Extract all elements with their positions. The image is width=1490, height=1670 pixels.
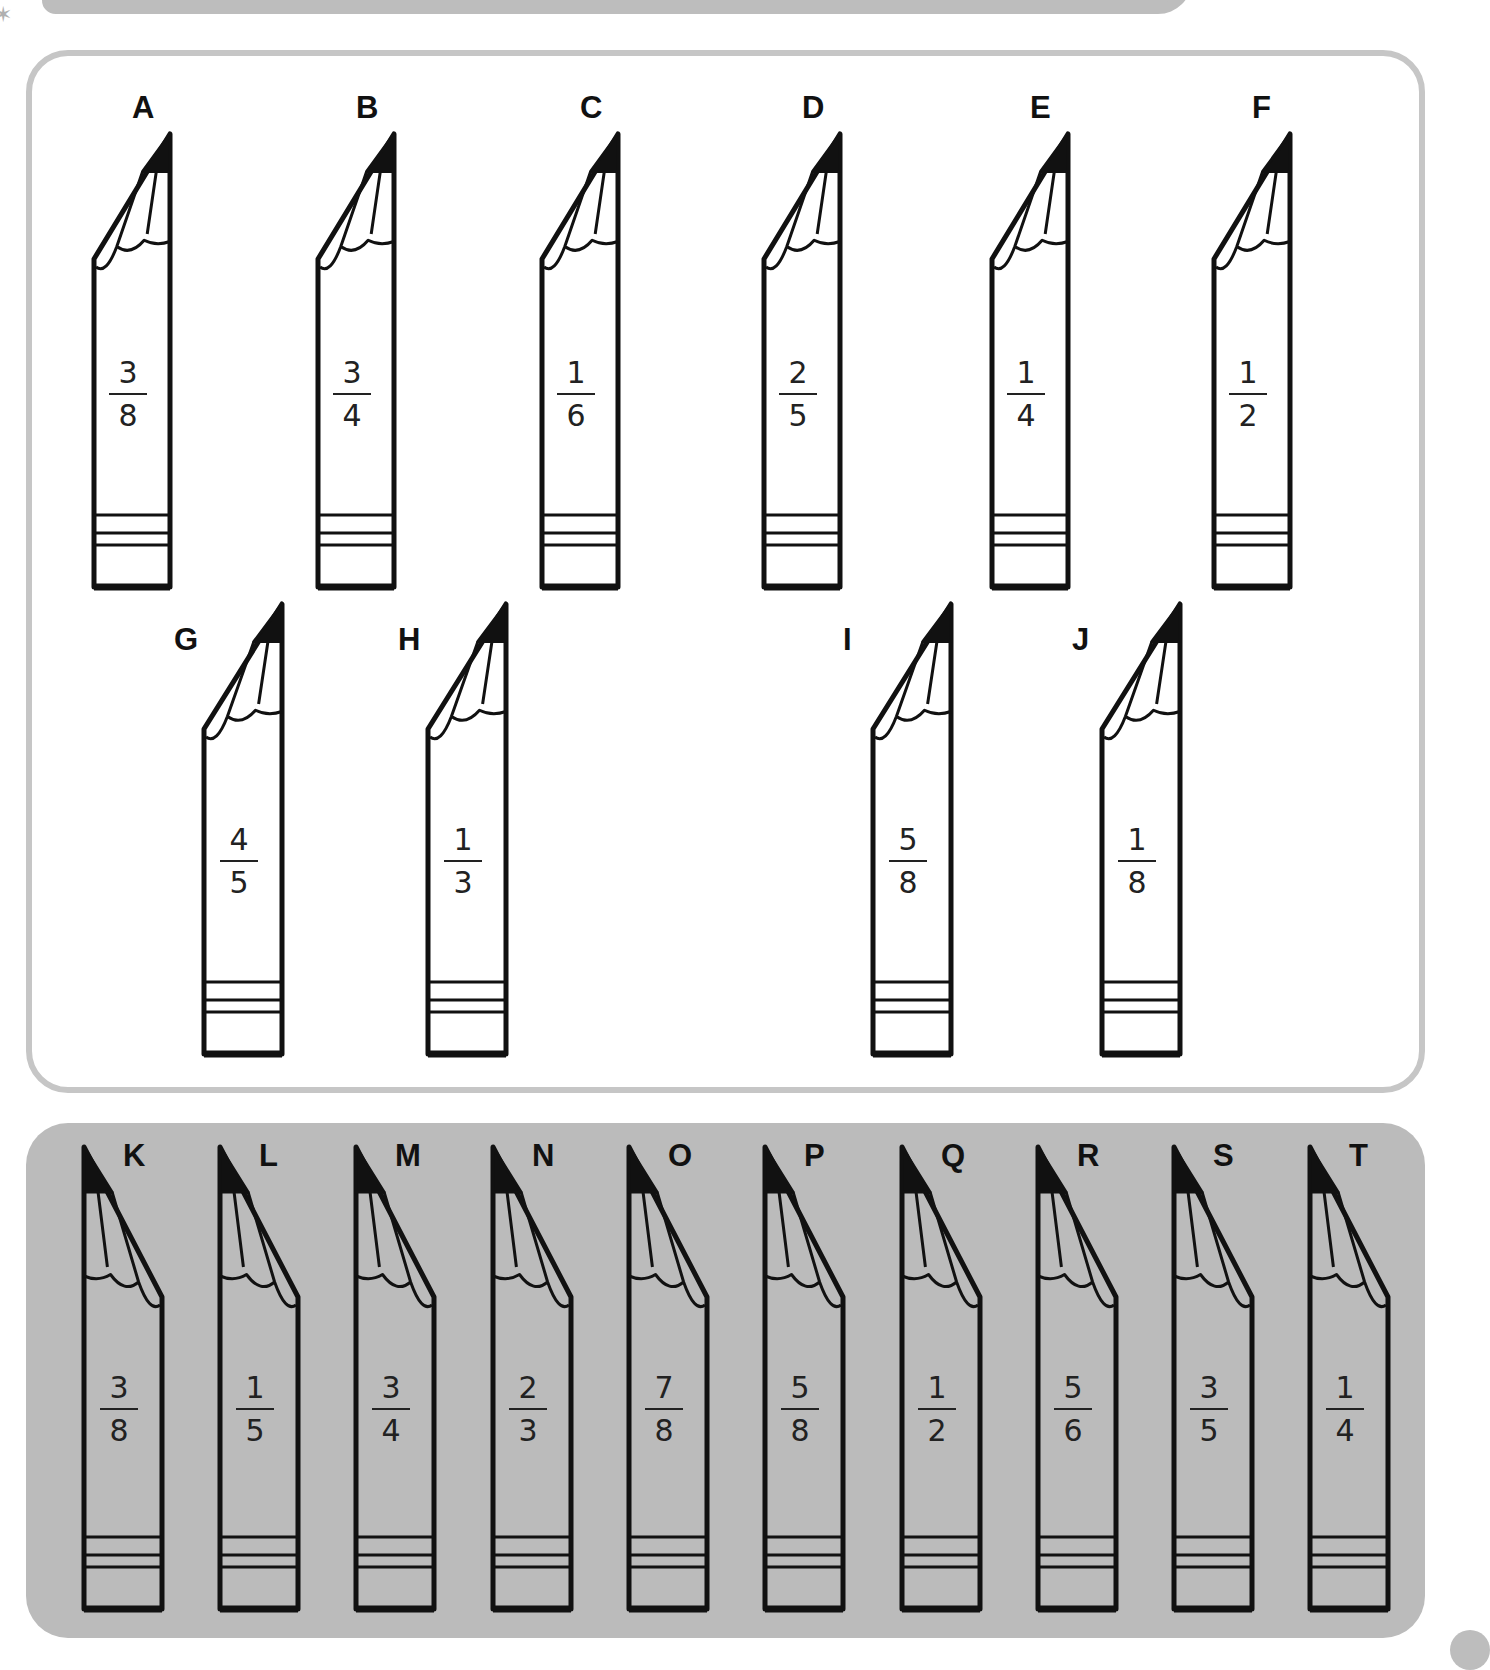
fraction-numerator: 1 xyxy=(927,1373,946,1403)
pencil-s: S35 xyxy=(1170,1143,1248,1605)
fraction-bar xyxy=(557,393,595,395)
top-header-strip xyxy=(42,0,1192,14)
fraction: 25 xyxy=(776,358,820,431)
fraction-numerator: 2 xyxy=(518,1373,537,1403)
pencil-label: N xyxy=(532,1140,554,1171)
pencil-c: C16 xyxy=(538,130,614,583)
pencil-label: O xyxy=(668,1140,692,1171)
fraction-denominator: 8 xyxy=(118,401,137,431)
fraction-bar xyxy=(1054,1408,1092,1410)
fraction-bar xyxy=(781,1408,819,1410)
pencil-o: O78 xyxy=(625,1143,703,1605)
pencil-label: H xyxy=(398,624,420,655)
fraction-denominator: 4 xyxy=(1335,1416,1354,1446)
pencil-g: G45 xyxy=(200,600,278,1050)
fraction-denominator: 2 xyxy=(927,1416,946,1446)
fraction: 16 xyxy=(554,358,598,431)
fraction-numerator: 3 xyxy=(118,358,137,388)
pencil-label: C xyxy=(580,92,602,123)
fraction-numerator: 1 xyxy=(566,358,585,388)
fraction: 58 xyxy=(886,825,930,898)
pencil-i: I58 xyxy=(869,600,947,1050)
fraction-numerator: 3 xyxy=(1199,1373,1218,1403)
fraction-bar xyxy=(109,393,147,395)
pencil-label: B xyxy=(356,92,378,123)
fraction: 58 xyxy=(778,1373,822,1446)
fraction: 13 xyxy=(441,825,485,898)
pencil-q: Q12 xyxy=(898,1143,976,1605)
fraction-bar xyxy=(100,1408,138,1410)
fraction-numerator: 3 xyxy=(342,358,361,388)
fraction: 12 xyxy=(1226,358,1270,431)
fraction: 38 xyxy=(97,1373,141,1446)
fraction: 15 xyxy=(233,1373,277,1446)
fraction: 34 xyxy=(330,358,374,431)
fraction-bar xyxy=(1007,393,1045,395)
pencil-label: J xyxy=(1072,624,1089,655)
fraction-bar xyxy=(779,393,817,395)
pencil-l: L15 xyxy=(216,1143,294,1605)
fraction-denominator: 3 xyxy=(518,1416,537,1446)
fraction-denominator: 5 xyxy=(788,401,807,431)
fraction: 14 xyxy=(1004,358,1048,431)
fraction-bar xyxy=(509,1408,547,1410)
fraction-denominator: 8 xyxy=(109,1416,128,1446)
fraction-denominator: 8 xyxy=(654,1416,673,1446)
fraction-numerator: 1 xyxy=(1016,358,1035,388)
fraction-bar xyxy=(444,860,482,862)
pencil-label: G xyxy=(174,624,198,655)
fraction-bar xyxy=(220,860,258,862)
pencil-label: K xyxy=(123,1140,145,1171)
fraction-denominator: 4 xyxy=(1016,401,1035,431)
fraction-bar xyxy=(1229,393,1267,395)
fraction-denominator: 6 xyxy=(1063,1416,1082,1446)
pencil-t: T14 xyxy=(1306,1143,1384,1605)
top-header-strip-tail xyxy=(1150,0,1195,14)
star-icon: ✶ xyxy=(0,4,12,26)
pencil-h: H13 xyxy=(424,600,502,1050)
pencil-label: R xyxy=(1077,1140,1099,1171)
fraction-numerator: 3 xyxy=(109,1373,128,1403)
fraction-denominator: 5 xyxy=(245,1416,264,1446)
fraction-denominator: 2 xyxy=(1238,401,1257,431)
fraction: 45 xyxy=(217,825,261,898)
pencil-f: F12 xyxy=(1210,130,1286,583)
pencil-label: I xyxy=(843,624,852,655)
pencil-label: D xyxy=(802,92,824,123)
pencil-label: M xyxy=(395,1140,421,1171)
pencil-label: P xyxy=(804,1140,825,1171)
pencil-r: R56 xyxy=(1034,1143,1112,1605)
fraction-bar xyxy=(236,1408,274,1410)
fraction: 35 xyxy=(1187,1373,1231,1446)
pencil-n: N23 xyxy=(489,1143,567,1605)
fraction-bar xyxy=(333,393,371,395)
fraction-denominator: 5 xyxy=(1199,1416,1218,1446)
pencil-label: L xyxy=(259,1140,278,1171)
fraction-numerator: 5 xyxy=(1063,1373,1082,1403)
fraction-numerator: 5 xyxy=(790,1373,809,1403)
fraction-denominator: 4 xyxy=(381,1416,400,1446)
pencil-k: K38 xyxy=(80,1143,158,1605)
fraction-bar xyxy=(645,1408,683,1410)
pencil-m: M34 xyxy=(352,1143,430,1605)
fraction: 12 xyxy=(915,1373,959,1446)
pencil-label: S xyxy=(1213,1140,1234,1171)
pencil-label: A xyxy=(132,92,154,123)
fraction: 38 xyxy=(106,358,150,431)
fraction-numerator: 3 xyxy=(381,1373,400,1403)
fraction-numerator: 1 xyxy=(245,1373,264,1403)
pencil-p: P58 xyxy=(761,1143,839,1605)
fraction: 23 xyxy=(506,1373,550,1446)
fraction-bar xyxy=(889,860,927,862)
fraction-bar xyxy=(1190,1408,1228,1410)
fraction-bar xyxy=(372,1408,410,1410)
pencil-label: Q xyxy=(941,1140,965,1171)
fraction-denominator: 8 xyxy=(1127,868,1146,898)
fraction-bar xyxy=(1326,1408,1364,1410)
fraction: 78 xyxy=(642,1373,686,1446)
fraction-numerator: 1 xyxy=(1335,1373,1354,1403)
fraction: 56 xyxy=(1051,1373,1095,1446)
pencil-j: J18 xyxy=(1098,600,1176,1050)
fraction-numerator: 5 xyxy=(898,825,917,855)
fraction-denominator: 8 xyxy=(790,1416,809,1446)
